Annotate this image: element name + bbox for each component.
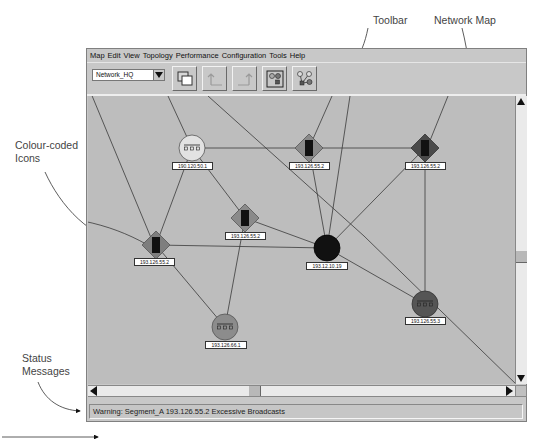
menu-map[interactable]: Map xyxy=(90,51,105,60)
up-level-button[interactable] xyxy=(202,66,227,91)
node-n4-label[interactable]: 193.126.55.2 xyxy=(225,232,266,240)
menu-edit[interactable]: Edit xyxy=(108,51,121,60)
new-window-button[interactable] xyxy=(172,66,197,91)
node-n7-label[interactable]: 193.126.55.3 xyxy=(405,317,446,325)
vertical-scrollbar[interactable] xyxy=(515,96,527,384)
status-message: Warning: Segment_A 193.126.55.2 Excessiv… xyxy=(93,407,285,416)
annotation-colour-coded-icons: Colour-coded Icons xyxy=(15,139,78,165)
submap-icon xyxy=(265,69,285,89)
node-n5-router-icon xyxy=(142,231,170,259)
node-n7-hub-icon xyxy=(412,291,438,317)
arrow-up-icon xyxy=(517,98,525,105)
scroll-up-button[interactable] xyxy=(516,96,527,108)
node-n6-hub-icon xyxy=(314,235,340,261)
horizontal-scroll-thumb[interactable] xyxy=(249,386,261,396)
annotation-colour-coded-line2: Icons xyxy=(15,152,78,165)
status-callout-arrow xyxy=(38,382,80,411)
arrow-down-icon xyxy=(517,375,525,382)
annotation-status-messages: Status Messages xyxy=(22,352,70,378)
menu-bar: Map Edit View Topology Performance Confi… xyxy=(87,49,526,63)
scroll-left-button[interactable] xyxy=(88,386,100,396)
scrollbar-corner xyxy=(515,385,527,397)
node-n5-label[interactable]: 193.126.55.2 xyxy=(134,258,175,266)
menu-help[interactable]: Help xyxy=(290,51,305,60)
menu-configuration[interactable]: Configuration xyxy=(222,51,267,60)
menu-tools[interactable]: Tools xyxy=(269,51,287,60)
node-n6-label[interactable]: 193.12.10.19 xyxy=(306,262,348,270)
scroll-right-button[interactable] xyxy=(503,386,515,396)
scroll-down-button[interactable] xyxy=(516,372,527,384)
up-left-arrow-icon xyxy=(205,69,225,89)
menu-view[interactable]: View xyxy=(124,51,140,60)
topology-button[interactable] xyxy=(292,66,317,91)
node-n8-label[interactable]: 193.126.66.1 xyxy=(205,341,247,349)
node-n1-hub-icon xyxy=(179,135,205,161)
arrow-left-icon xyxy=(90,386,97,396)
status-bar: Warning: Segment_A 193.126.55.2 Excessiv… xyxy=(89,404,523,419)
annotation-status-line2: Messages xyxy=(22,365,70,378)
network-links xyxy=(88,96,515,384)
node-n3-label[interactable]: 193.126.55.2 xyxy=(405,162,446,170)
node-n8-hub-icon xyxy=(212,314,238,340)
toolbar: Network_HQ xyxy=(87,63,526,96)
app-window: Map Edit View Topology Performance Confi… xyxy=(86,48,527,422)
annotation-toolbar: Toolbar xyxy=(373,14,407,27)
annotation-colour-coded-line1: Colour-coded xyxy=(15,139,78,152)
annotation-network-map: Network Map xyxy=(434,14,496,27)
network-map[interactable]: 190.120.50.1 193.126.55.2 193.126.55.2 1… xyxy=(88,96,515,384)
up-right-arrow-icon xyxy=(235,69,255,89)
menu-performance[interactable]: Performance xyxy=(176,51,219,60)
horizontal-scrollbar[interactable] xyxy=(88,385,515,397)
node-n4-router-icon xyxy=(231,204,259,232)
vertical-scroll-thumb[interactable] xyxy=(516,251,527,263)
node-n1-label[interactable]: 190.120.50.1 xyxy=(172,162,213,170)
node-n2-label[interactable]: 193.126.55.2 xyxy=(289,162,330,170)
annotation-status-line1: Status xyxy=(22,352,70,365)
node-n2-router-icon xyxy=(295,134,323,162)
map-select-dropdown-button[interactable] xyxy=(153,69,165,81)
submap-button[interactable] xyxy=(262,66,287,91)
menu-topology[interactable]: Topology xyxy=(143,51,173,60)
arrow-right-icon xyxy=(506,386,513,396)
topology-icon xyxy=(295,69,315,89)
up-level-right-button[interactable] xyxy=(232,66,257,91)
overlapping-windows-icon xyxy=(175,69,195,89)
